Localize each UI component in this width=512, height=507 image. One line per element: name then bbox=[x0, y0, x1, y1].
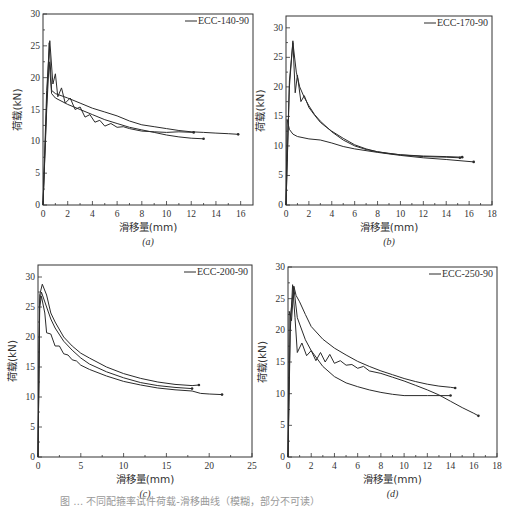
x-tick-label: 14 bbox=[441, 209, 451, 219]
x-tick-label: 14 bbox=[446, 461, 456, 471]
x-tick-label: 2 bbox=[307, 209, 312, 219]
x-tick-label: 16 bbox=[236, 209, 246, 219]
x-tick-label: 14 bbox=[211, 209, 221, 219]
x-tick-label: 25 bbox=[247, 461, 257, 471]
subplot-c: 0510152025051015202530ECC-200-90滑移量(mm)荷… bbox=[6, 265, 257, 500]
plot-frame bbox=[38, 265, 252, 457]
x-tick-label: 10 bbox=[399, 461, 409, 471]
x-tick-label: 10 bbox=[162, 209, 172, 219]
y-tick-label: 5 bbox=[30, 422, 35, 432]
y-tick-label: 25 bbox=[31, 41, 41, 51]
y-tick-label: 0 bbox=[278, 200, 283, 210]
y-tick-label: 15 bbox=[276, 357, 286, 367]
y-tick-label: 20 bbox=[276, 325, 286, 335]
y-axis-label: 荷载(kN) bbox=[256, 341, 268, 383]
series-end-marker bbox=[454, 387, 457, 390]
x-axis-label: 滑移量(mm) bbox=[116, 473, 175, 485]
series-end-marker bbox=[449, 394, 452, 397]
legend-label: ECC-200-90 bbox=[197, 266, 248, 277]
x-axis-label: 滑移量(mm) bbox=[119, 221, 178, 233]
series-end-marker bbox=[237, 133, 240, 136]
y-tick-label: 25 bbox=[276, 294, 286, 304]
series-end-marker bbox=[191, 387, 194, 390]
y-tick-label: 10 bbox=[274, 141, 284, 151]
y-tick-label: 20 bbox=[274, 82, 284, 92]
data-series-specimen-3 bbox=[286, 119, 474, 205]
legend-label: ECC-250-90 bbox=[442, 268, 493, 279]
legend-label: ECC-170-90 bbox=[437, 17, 488, 28]
subplot-label: (d) bbox=[387, 488, 399, 500]
x-tick-label: 18 bbox=[487, 209, 497, 219]
y-tick-label: 5 bbox=[280, 420, 285, 430]
data-series-specimen-2 bbox=[38, 292, 192, 457]
x-tick-label: 4 bbox=[90, 209, 95, 219]
subplot-a: 0246810121416051015202530ECC-140-90滑移量(m… bbox=[11, 9, 253, 248]
x-axis-label: 滑移量(mm) bbox=[363, 473, 422, 485]
legend-label: ECC-140-90 bbox=[198, 15, 249, 26]
series-end-marker bbox=[198, 384, 201, 387]
y-tick-label: 25 bbox=[26, 302, 36, 312]
data-series-specimen-3 bbox=[288, 287, 451, 457]
subplot-label: (a) bbox=[142, 236, 154, 248]
x-tick-label: 5 bbox=[78, 461, 83, 471]
y-tick-label: 30 bbox=[274, 23, 284, 33]
x-tick-label: 12 bbox=[186, 209, 196, 219]
x-tick-label: 0 bbox=[284, 209, 289, 219]
y-tick-label: 10 bbox=[276, 389, 286, 399]
series-end-marker bbox=[192, 131, 195, 134]
y-tick-label: 30 bbox=[276, 262, 286, 272]
y-tick-label: 10 bbox=[31, 136, 41, 146]
y-tick-label: 15 bbox=[31, 105, 41, 115]
figure-canvas: 0246810121416051015202530ECC-140-90滑移量(m… bbox=[0, 0, 512, 507]
x-tick-label: 0 bbox=[41, 209, 46, 219]
series-end-marker bbox=[202, 137, 205, 140]
plot-frame bbox=[43, 14, 253, 205]
figure-caption: 图 … 不同配箍率试件荷载-滑移曲线（模糊，部分不可读） bbox=[60, 493, 320, 507]
subplot-label: (b) bbox=[383, 236, 395, 248]
data-series-specimen-2 bbox=[288, 285, 478, 457]
y-tick-label: 0 bbox=[30, 452, 35, 462]
y-tick-label: 15 bbox=[274, 111, 284, 121]
y-axis-label: 荷载(kN) bbox=[11, 88, 23, 130]
x-tick-label: 8 bbox=[139, 209, 144, 219]
y-tick-label: 15 bbox=[26, 362, 36, 372]
x-tick-label: 2 bbox=[309, 461, 314, 471]
x-tick-label: 6 bbox=[355, 461, 360, 471]
y-axis-label: 荷载(kN) bbox=[6, 340, 18, 382]
y-tick-label: 0 bbox=[35, 200, 40, 210]
series-end-marker bbox=[459, 156, 462, 159]
x-tick-label: 10 bbox=[396, 209, 406, 219]
subplot-d: 024681012141618051015202530ECC-250-90滑移量… bbox=[256, 262, 502, 500]
y-tick-label: 10 bbox=[26, 392, 36, 402]
y-tick-label: 0 bbox=[280, 452, 285, 462]
x-tick-label: 4 bbox=[332, 461, 337, 471]
x-tick-label: 15 bbox=[162, 461, 172, 471]
x-tick-label: 0 bbox=[36, 461, 41, 471]
data-series-specimen-1 bbox=[286, 41, 462, 205]
y-axis-label: 荷载(kN) bbox=[254, 89, 266, 131]
x-tick-label: 6 bbox=[115, 209, 120, 219]
data-series-specimen-2 bbox=[286, 43, 460, 205]
data-series-specimen-3 bbox=[38, 296, 222, 457]
x-tick-label: 8 bbox=[379, 461, 384, 471]
y-tick-label: 5 bbox=[35, 168, 40, 178]
x-tick-label: 6 bbox=[352, 209, 357, 219]
x-axis-label: 滑移量(mm) bbox=[360, 221, 419, 233]
x-tick-label: 20 bbox=[204, 461, 214, 471]
y-tick-label: 20 bbox=[26, 332, 36, 342]
y-tick-label: 5 bbox=[278, 170, 283, 180]
data-series-specimen-2 bbox=[43, 41, 194, 205]
series-end-marker bbox=[477, 415, 480, 418]
y-tick-label: 30 bbox=[26, 272, 36, 282]
x-tick-label: 16 bbox=[469, 461, 479, 471]
x-tick-label: 10 bbox=[119, 461, 129, 471]
y-tick-label: 25 bbox=[274, 52, 284, 62]
series-end-marker bbox=[472, 161, 475, 164]
series-end-marker bbox=[221, 393, 224, 396]
x-tick-label: 12 bbox=[423, 461, 433, 471]
x-tick-label: 18 bbox=[492, 461, 502, 471]
y-tick-label: 20 bbox=[31, 73, 41, 83]
data-series-specimen-3 bbox=[43, 62, 204, 205]
y-tick-label: 30 bbox=[31, 9, 41, 19]
data-series-specimen-1 bbox=[43, 43, 238, 205]
